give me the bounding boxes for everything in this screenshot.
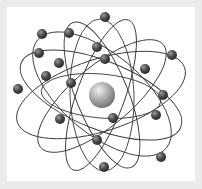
electron-sphere [108,113,118,123]
electron-sphere [92,42,102,52]
electron-sphere [158,90,168,100]
nucleus [89,82,115,108]
atom-illustration [0,0,202,189]
electron-sphere [100,54,110,64]
electron-sphere [167,50,177,60]
electron-sphere [99,162,109,172]
electron-sphere [151,110,161,120]
electron-sphere [13,84,23,94]
electron-sphere [34,48,44,58]
electron-sphere [156,152,166,162]
electron-sphere [55,114,65,124]
electron-sphere [64,28,74,38]
electron-sphere [37,29,47,39]
electron-sphere [92,135,102,145]
electron-sphere [66,78,76,88]
electron-sphere [100,12,110,22]
nucleus-sphere [89,82,115,108]
electron-sphere [54,58,64,68]
electron-sphere [140,64,150,74]
electron-sphere [41,71,51,81]
